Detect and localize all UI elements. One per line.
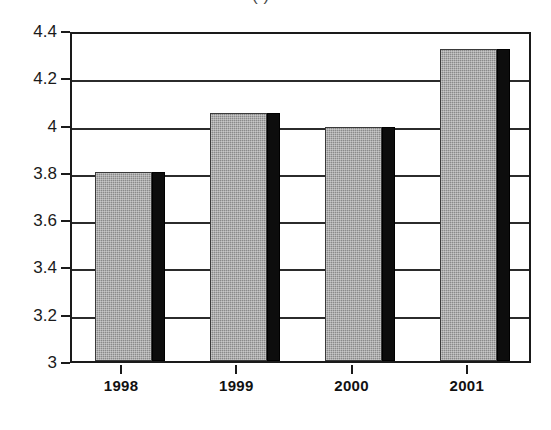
y-axis-tick bbox=[61, 267, 70, 269]
y-axis-tick bbox=[61, 31, 70, 33]
y-axis-labels: 33.23.43.63.844.24.4 bbox=[0, 0, 57, 430]
bar-face bbox=[325, 127, 382, 361]
y-axis-tick bbox=[61, 173, 70, 175]
x-axis-tick-label: 1999 bbox=[191, 377, 281, 394]
x-axis-tick bbox=[351, 365, 353, 374]
x-axis-tick bbox=[120, 365, 122, 374]
y-axis-tick-label: 3.4 bbox=[5, 259, 57, 276]
y-axis-tick-label: 3.2 bbox=[5, 307, 57, 324]
y-axis-tick bbox=[61, 315, 70, 317]
x-axis-tick-label: 1998 bbox=[76, 377, 166, 394]
bar-shadow bbox=[497, 49, 510, 361]
bar-face bbox=[440, 49, 497, 361]
bar-shadow bbox=[152, 172, 165, 361]
y-axis-tick-label: 3 bbox=[5, 354, 57, 371]
bar-chart: 33.23.43.63.844.24.4 1998199920002001 bbox=[0, 0, 551, 430]
bar-face bbox=[210, 113, 267, 361]
plot-area bbox=[70, 32, 531, 363]
y-axis-tick bbox=[61, 78, 70, 80]
bar bbox=[210, 113, 280, 361]
y-axis-tick-label: 4.4 bbox=[5, 23, 57, 40]
y-axis-tick-label: 4.2 bbox=[5, 70, 57, 87]
x-axis-tick bbox=[235, 365, 237, 374]
bar bbox=[95, 172, 165, 361]
y-axis-tick-label: 4 bbox=[5, 118, 57, 135]
x-axis-tick-label: 2001 bbox=[422, 377, 512, 394]
x-axis-tick bbox=[466, 365, 468, 374]
y-axis-tick bbox=[61, 362, 70, 364]
x-axis-tick-label: 2000 bbox=[307, 377, 397, 394]
y-axis-tick bbox=[61, 220, 70, 222]
y-axis-tick-label: 3.6 bbox=[5, 212, 57, 229]
y-axis-tick bbox=[61, 126, 70, 128]
y-axis-tick-label: 3.8 bbox=[5, 165, 57, 182]
bar-shadow bbox=[382, 127, 395, 361]
bar-face bbox=[95, 172, 152, 361]
bar-shadow bbox=[267, 113, 280, 361]
bar bbox=[440, 49, 510, 361]
bar bbox=[325, 127, 395, 361]
